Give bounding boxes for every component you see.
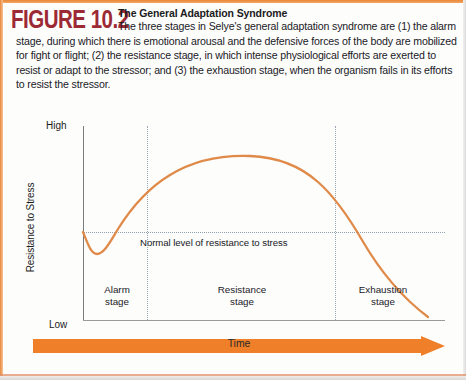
stage-label-resistance: Resistance stage: [152, 284, 332, 309]
stage-label-alarm: Alarm stage: [88, 284, 146, 309]
stage-label-resistance-line2: stage: [152, 296, 332, 308]
stage-label-alarm-line1: Alarm: [88, 284, 146, 296]
figure-caption: The three stages in Selye's general adap…: [16, 19, 458, 92]
figure-title: The General Adaptation Syndrome: [118, 7, 287, 19]
stage-label-exhaustion-line1: Exhaustion: [340, 284, 426, 296]
page-top-border: [0, 0, 466, 3]
stage-label-resistance-line1: Resistance: [152, 284, 332, 296]
x-axis-label: Time: [33, 338, 445, 349]
stage-label-exhaustion: Exhaustion stage: [340, 284, 426, 309]
chart-area: Resistance to Stress High Low Normal lev…: [0, 104, 466, 380]
figure-page: FIGURE 10.2 The General Adaptation Syndr…: [0, 0, 466, 380]
stage-label-alarm-line2: stage: [88, 296, 146, 308]
stage-label-exhaustion-line2: stage: [340, 296, 426, 308]
